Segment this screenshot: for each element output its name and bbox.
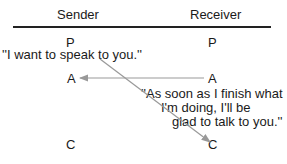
- arrows: [0, 0, 287, 164]
- transaction-diagram: Sender Receiver P P ''I want to speak to…: [0, 0, 287, 164]
- arrow-sender-to-receiver: [100, 59, 210, 142]
